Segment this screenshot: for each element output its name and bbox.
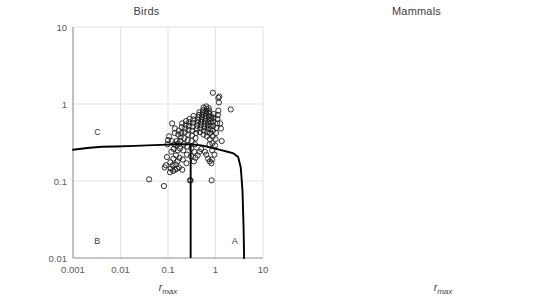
data-point — [191, 113, 196, 118]
data-point — [210, 90, 215, 95]
data-point — [164, 154, 169, 159]
y-axis-tick-label: 1 — [27, 99, 67, 110]
region-label-b: B — [94, 236, 100, 246]
data-point — [209, 178, 214, 183]
y-axis-tick-label: 10 — [27, 22, 67, 33]
panel-title-birds: Birds — [0, 5, 275, 17]
region-label-c: C — [94, 127, 101, 137]
x-axis-tick-label: 0.01 — [98, 264, 144, 275]
plot-area-birds: 1010.10.010.0010.010.1110ABC — [73, 27, 263, 258]
data-point — [184, 161, 189, 166]
data-point — [170, 121, 175, 126]
panel-mammals: Mammals 1010.10.010.0010.010.1110ABC — [275, 0, 550, 306]
region-label-a: A — [232, 236, 238, 246]
y-axis-tick-label: 0.1 — [27, 176, 67, 187]
data-point — [228, 107, 233, 112]
x-axis-label-subscript: max — [437, 287, 452, 296]
data-point — [212, 152, 217, 157]
x-axis-tick-label: 1 — [193, 264, 239, 275]
figure-root: Variability in growth rate due to enviro… — [0, 0, 551, 306]
x-axis-label-mammals: rmax — [348, 281, 538, 296]
data-point — [219, 138, 224, 143]
x-axis-label-birds: rmax — [73, 281, 263, 296]
data-point — [193, 136, 198, 141]
scatter-plot-birds — [73, 27, 263, 258]
data-point — [161, 183, 166, 188]
panel-title-mammals: Mammals — [275, 5, 550, 17]
y-axis-tick-label: 0.01 — [27, 253, 67, 264]
panel-birds: Birds 1010.10.010.0010.010.1110ABC — [0, 0, 275, 306]
x-axis-tick-label: 0.001 — [50, 264, 96, 275]
x-axis-label-subscript: max — [162, 287, 177, 296]
x-axis-tick-label: 0.1 — [145, 264, 191, 275]
